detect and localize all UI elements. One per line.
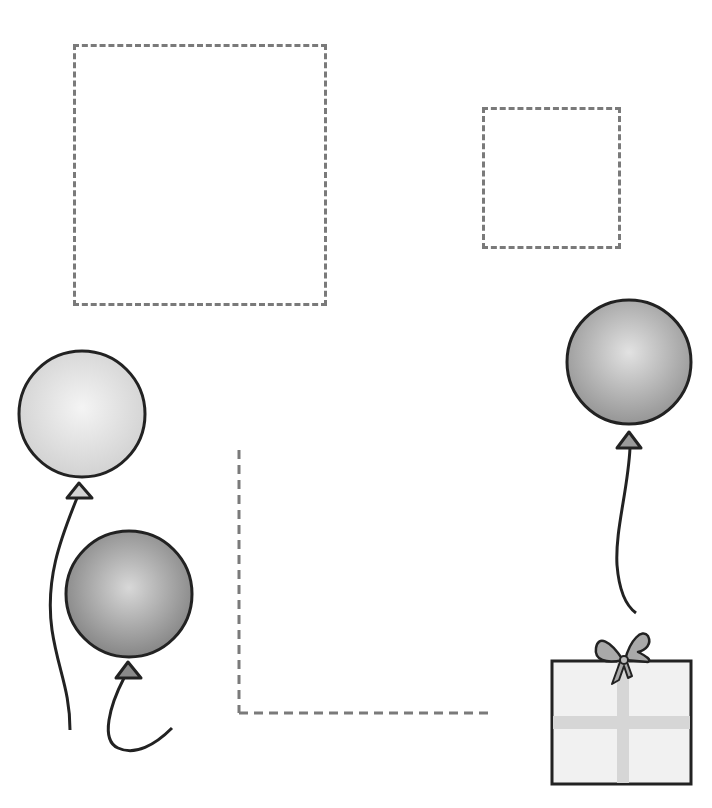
gift-box [552,633,691,784]
balloon-string [108,678,172,751]
dark-balloon [66,531,192,751]
balloon-knot [67,483,92,498]
illustration-layer [0,0,712,808]
gift-ribbon-horizontal [553,716,690,729]
right-balloon [567,300,691,613]
balloon-string [617,448,636,613]
balloon-knot [617,432,641,448]
dashed-corner-line [239,450,492,713]
balloon-knot [116,662,141,678]
worksheet-canvas [0,0,712,808]
